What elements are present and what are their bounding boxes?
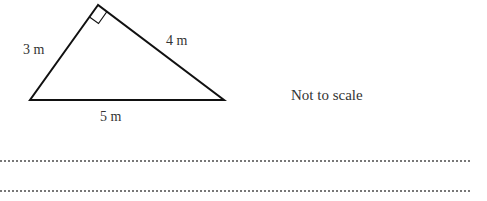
- side-label-right: 4 m: [166, 33, 187, 49]
- triangle: [30, 5, 224, 100]
- answer-line-1[interactable]: [0, 160, 470, 162]
- not-to-scale-note: Not to scale: [291, 87, 363, 104]
- triangle-figure: [0, 0, 487, 201]
- side-label-left: 3 m: [23, 42, 44, 58]
- side-label-base: 5 m: [100, 109, 121, 125]
- answer-line-2[interactable]: [0, 190, 470, 192]
